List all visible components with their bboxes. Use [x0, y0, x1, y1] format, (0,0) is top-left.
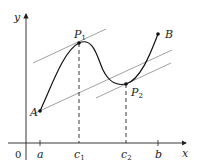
point-b	[156, 32, 160, 36]
tangent-line-p1	[33, 29, 106, 63]
tick-label-b: b	[155, 148, 162, 161]
label-p1: P1	[73, 28, 86, 42]
label-a: A	[29, 106, 38, 119]
tick-label-c2: c2	[121, 148, 132, 162]
tick-label-a: a	[37, 148, 44, 161]
x-axis-label: x	[182, 147, 189, 160]
point-a	[38, 109, 42, 113]
mvt-diagram: y x 0 a c1 c2 b A P1 P2 B	[0, 0, 197, 165]
point-p2	[124, 82, 128, 86]
origin-label: 0	[15, 149, 21, 160]
point-p1	[77, 41, 81, 45]
y-axis-label: y	[13, 11, 21, 24]
secant-line-ab	[33, 50, 172, 114]
label-b: B	[164, 28, 173, 41]
label-p2: P2	[130, 86, 143, 100]
tick-label-c1: c1	[74, 148, 85, 162]
